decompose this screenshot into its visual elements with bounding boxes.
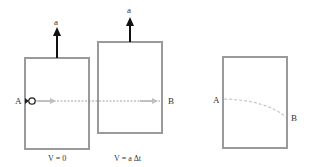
caption-velocity-zero: V = 0 [48, 154, 66, 163]
light-source [25, 98, 35, 104]
elevator-box-middle [98, 17, 162, 133]
arrow-head-icon [53, 27, 61, 36]
accel-label-left: a [54, 17, 58, 27]
accel-label-middle: a [127, 5, 131, 15]
elevator-box-left [25, 27, 89, 149]
light-ray-arrow-1 [38, 98, 56, 104]
point-b-middle: B [168, 96, 174, 106]
caption-velocity-a-dt: V = a Δt [114, 154, 142, 163]
point-a-left: A [15, 96, 22, 106]
point-a-right: A [213, 95, 220, 105]
point-b-right: B [291, 113, 297, 123]
arrow-head-icon [126, 17, 134, 26]
light-bending-diagram: a a A B V = 0 V = a Δt A B [0, 0, 310, 167]
elevator-box-right [223, 57, 287, 148]
curved-light-path [224, 99, 286, 117]
light-ray-arrow-2 [140, 98, 158, 104]
